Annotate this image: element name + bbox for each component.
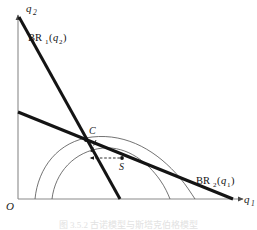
br1-line (19, 17, 120, 199)
br1-label-paren-close: ) (63, 32, 67, 44)
point-c-marker (84, 138, 88, 142)
br1-label-prefix: BR (28, 32, 42, 43)
x-axis-label: q (244, 193, 250, 205)
x-axis-label-group: q 1 (244, 193, 255, 208)
figure-container: q 2 q 1 O BR 1 ( q 2 ) BR (0, 0, 257, 230)
economics-diagram: q 2 q 1 O BR 1 ( q 2 ) BR (0, 0, 257, 230)
equilibrium-points-group: C S (84, 125, 124, 172)
point-s-marker (120, 156, 124, 160)
br2-label-prefix: BR (196, 175, 210, 186)
br2-label-argument: q (221, 175, 226, 186)
br2-label-paren-close: ) (231, 175, 235, 187)
y-axis-label-subscript: 2 (33, 8, 37, 17)
y-axis-label: q (26, 2, 32, 14)
figure-caption: 图 3.5.2 古诺模型与斯塔克伯格模型 (0, 220, 257, 230)
point-s-label: S (119, 161, 124, 172)
best-response-lines-group (18, 17, 233, 199)
origin-label: O (6, 200, 14, 212)
point-c-label: C (89, 125, 96, 136)
isoprofit-curve-inner (52, 148, 170, 199)
br1-label-argument: q (53, 32, 58, 43)
y-axis-label-group: q 2 (26, 2, 37, 17)
x-axis-label-subscript: 1 (251, 199, 255, 208)
